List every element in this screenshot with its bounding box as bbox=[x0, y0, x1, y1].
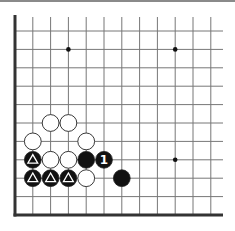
black-stone[interactable] bbox=[78, 151, 95, 168]
white-stone[interactable] bbox=[42, 151, 59, 168]
go-board: 1 bbox=[0, 0, 235, 231]
white-stone[interactable] bbox=[78, 133, 95, 150]
white-stone[interactable] bbox=[42, 115, 59, 132]
white-stone[interactable] bbox=[24, 133, 41, 150]
white-stone[interactable] bbox=[60, 115, 77, 132]
star-point bbox=[66, 47, 71, 52]
star-point bbox=[173, 158, 178, 163]
white-stone[interactable] bbox=[60, 151, 77, 168]
star-point bbox=[173, 47, 178, 52]
move-number-label: 1 bbox=[100, 153, 108, 167]
white-stone[interactable] bbox=[78, 170, 95, 187]
black-stone[interactable] bbox=[113, 170, 130, 187]
